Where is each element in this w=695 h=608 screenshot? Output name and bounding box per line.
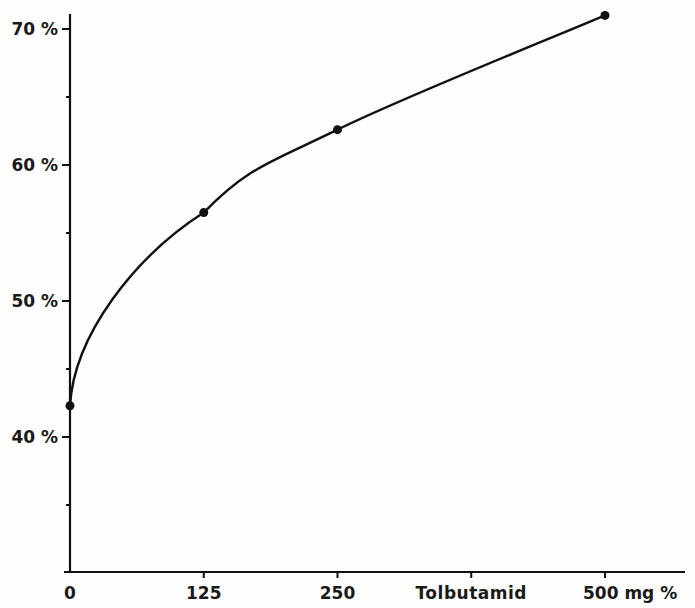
x-tick-label: 250 [320, 583, 356, 603]
response-curve [70, 15, 605, 405]
y-tick-label: 50 % [11, 291, 58, 311]
x-tick-label: 500 mg % [583, 583, 677, 603]
data-point [333, 125, 342, 134]
data-series [66, 11, 610, 410]
x-tick-label: 0 [64, 583, 76, 603]
data-point [199, 208, 208, 217]
x-axis: 0125250Tolbutamid500 mg % [64, 572, 685, 603]
y-axis: 40 %50 %60 %70 % [11, 14, 70, 572]
data-point [66, 401, 75, 410]
data-point [601, 11, 610, 20]
x-axis-title: Tolbutamid [416, 583, 527, 603]
line-chart: 40 %50 %60 %70 % 0125250Tolbutamid500 mg… [0, 0, 695, 608]
y-tick-label: 70 % [11, 19, 58, 39]
x-tick-label: 125 [186, 583, 222, 603]
y-tick-label: 40 % [11, 427, 58, 447]
y-tick-label: 60 % [11, 155, 58, 175]
